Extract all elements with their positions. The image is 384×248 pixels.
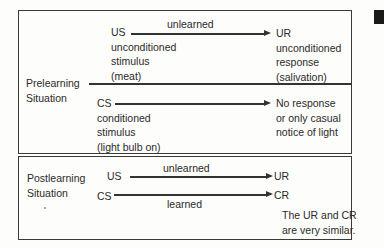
post-cs-to-cr-arrow [114,194,267,196]
prelearning-divider [89,83,352,85]
page-edge-mark [374,10,384,24]
post-us-to-ur-arrow [130,176,267,178]
similarity-note: The UR and CR are very similar. [282,209,357,236]
ur-block: UR unconditioned response (salivation) [276,27,341,83]
post-us-arrow-label: unlearned [163,162,210,175]
post-cs-arrow-label: learned [167,198,202,211]
us-arrow-label: unlearned [167,18,214,31]
cs-result-block: No response or only casual notice of lig… [276,97,341,139]
prelearning-label: Prelearning Situation [26,77,80,104]
ur-abbr: UR [276,27,341,40]
cs-block: CS conditioned stimulus (light bulb on) [97,97,161,153]
cs-to-response-arrow [115,103,265,105]
post-cs-abbr: CS [97,190,112,203]
postlearning-label: Postlearning Situation [27,172,85,199]
us-to-ur-arrow [131,33,265,35]
post-cr-abbr: CR [274,189,289,202]
scan-speck [44,207,46,209]
post-ur-abbr: UR [274,170,289,183]
post-us-abbr: US [107,170,122,183]
